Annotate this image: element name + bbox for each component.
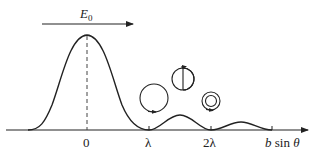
intensity-curve <box>28 35 272 130</box>
field-label-main: E <box>80 6 88 21</box>
axis-label: b sin θ <box>265 136 300 149</box>
field-label-subscript: 0 <box>88 13 93 23</box>
tick-label-zero: 0 <box>83 136 90 149</box>
axis-label-sin: sin <box>272 135 294 150</box>
phasor-one-and-half-turn-icon <box>172 67 194 91</box>
axis-label-theta: θ <box>293 135 299 150</box>
field-label: E0 <box>80 7 92 23</box>
phasor-double-spiral-icon <box>202 92 220 111</box>
tick-label-lambda: λ <box>145 136 151 149</box>
phasor-closed-circle-icon <box>140 84 168 112</box>
tick-label-2lambda: 2λ <box>203 136 216 149</box>
diagram-canvas <box>0 0 314 153</box>
